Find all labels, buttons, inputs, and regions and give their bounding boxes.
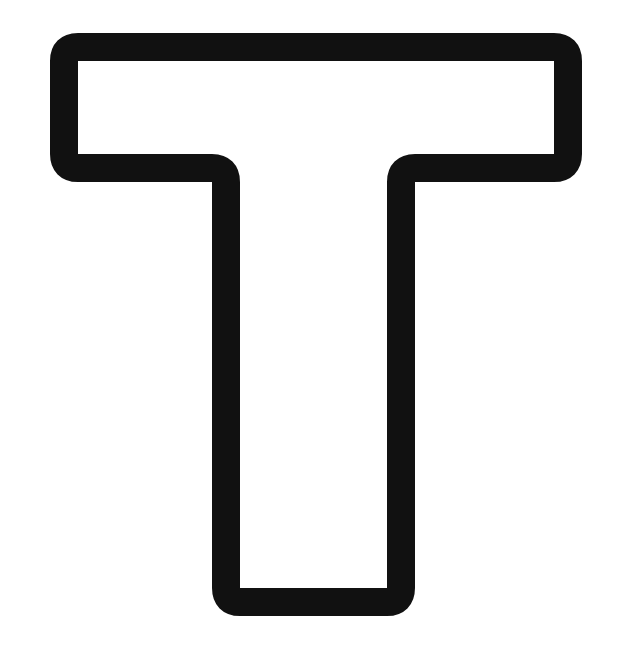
letter-t-outline bbox=[0, 0, 636, 653]
t-shape-outline-path bbox=[64, 47, 568, 602]
